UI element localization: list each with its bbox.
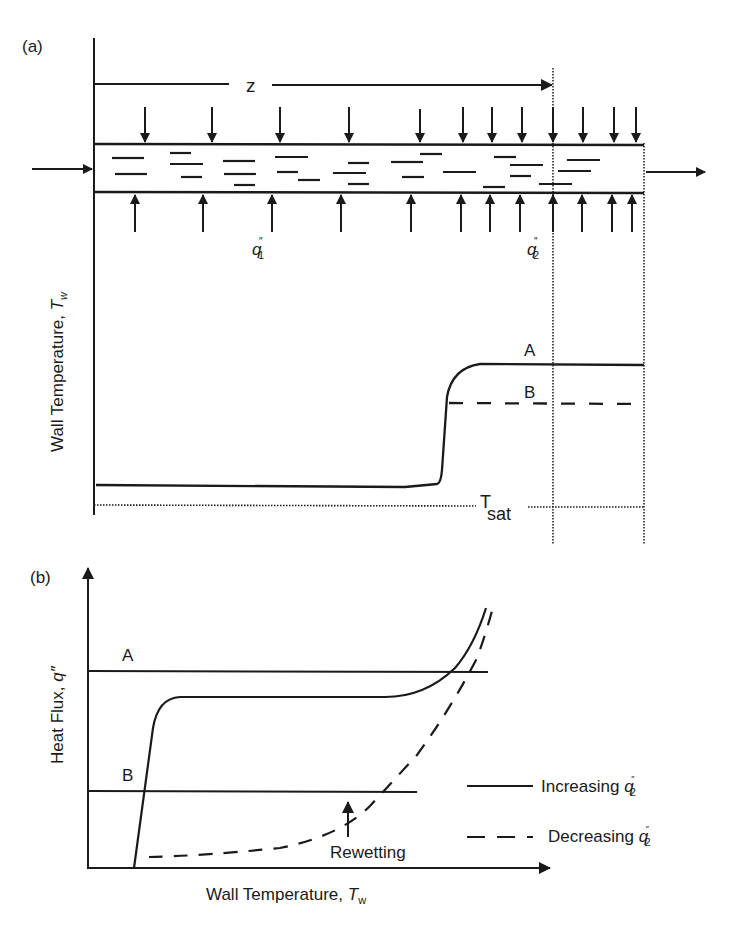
panel-b-label: (b) [30, 568, 51, 587]
legend: Increasing q″2 Decreasing q″2 [467, 774, 651, 848]
line-b-label: B [122, 766, 133, 785]
tsat-label: Tsat [480, 492, 511, 524]
panel-b-x-axis-label: Wall Temperature, Tw [206, 885, 366, 906]
panel-a-label: (a) [22, 37, 43, 56]
panel-b-y-axis-label: Heat Flux, q″ [48, 665, 67, 764]
heat-flux-arrows-bottom [135, 195, 632, 232]
tsat-line-left [94, 505, 476, 506]
boiling-curve-increasing [134, 608, 486, 868]
tube-bottom-wall [94, 192, 644, 193]
tube-top-wall [94, 144, 644, 145]
z-label: z [246, 75, 256, 96]
heat-flux-line-b [88, 791, 417, 792]
panel-a: (a) z [22, 37, 705, 545]
rewetting-label: Rewetting [330, 843, 406, 862]
wall-temp-curve-a [96, 364, 644, 487]
heat-flux-arrows-top [145, 107, 636, 142]
q1-label: q″1 [252, 236, 264, 261]
panel-b: (b) Heat Flux, q″ Wall Temperature, Tw A… [30, 568, 651, 906]
figure: (a) z [0, 0, 733, 927]
boiling-curve-decreasing [149, 611, 492, 857]
line-a-label: A [122, 646, 134, 665]
legend-increasing-label: Increasing q″2 [541, 774, 636, 798]
wall-temp-curve-b [449, 403, 644, 404]
q2-label: q″2 [527, 236, 539, 261]
heat-flux-line-a [88, 671, 488, 672]
curve-b-label: B [524, 383, 535, 402]
panel-a-y-axis-label: Wall Temperature, Tw [48, 291, 69, 452]
two-phase-flow-dashes [112, 153, 600, 187]
legend-decreasing-label: Decreasing q″2 [548, 824, 651, 848]
curve-a-label: A [524, 341, 536, 360]
